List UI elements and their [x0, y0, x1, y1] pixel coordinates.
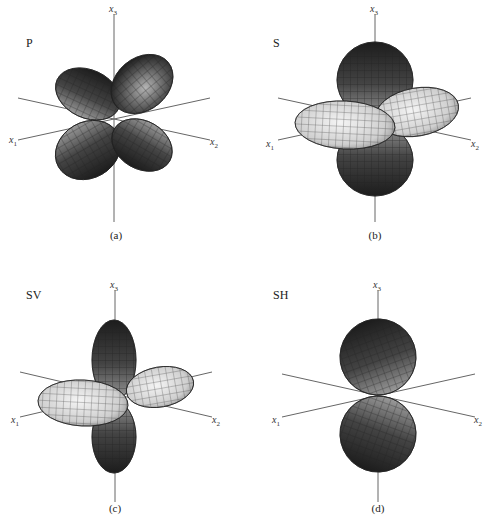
- axis-label-x2: x2: [471, 138, 479, 152]
- axis-label-x2: x2: [212, 414, 220, 428]
- axis-label-x1: x1: [266, 138, 274, 152]
- axis-label-x3: x3: [109, 3, 117, 17]
- panel-title: SV: [26, 288, 41, 303]
- panel-s: S x3 x1 x2 (b): [245, 0, 490, 262]
- p-wave-radiation-pattern: [0, 0, 245, 262]
- axis-label-x3: x3: [370, 3, 378, 17]
- axis-label-x1: x1: [9, 134, 17, 148]
- axis-label-x2: x2: [474, 414, 482, 428]
- panel-caption: (c): [95, 502, 135, 514]
- s-wave-radiation-pattern: [245, 0, 490, 262]
- axis-label-x2: x2: [210, 136, 218, 150]
- axes: [18, 14, 210, 222]
- panel-sh: SH x3 x1 x2 (d): [245, 262, 490, 524]
- axis-label-x1: x1: [272, 414, 280, 428]
- axis-label-x3: x3: [110, 279, 118, 293]
- panel-caption: (b): [355, 229, 395, 241]
- panel-p: P x3 x1 x2 (a): [0, 0, 245, 262]
- axis-label-x3: x3: [373, 279, 381, 293]
- panel-caption: (a): [96, 229, 136, 241]
- panel-title: S: [273, 36, 280, 51]
- panel-title: P: [26, 36, 33, 51]
- panel-caption: (d): [358, 502, 398, 514]
- axis-label-x1: x1: [11, 414, 19, 428]
- panel-title: SH: [273, 288, 288, 303]
- panel-sv: SV x3 x1 x2 (c): [0, 262, 245, 524]
